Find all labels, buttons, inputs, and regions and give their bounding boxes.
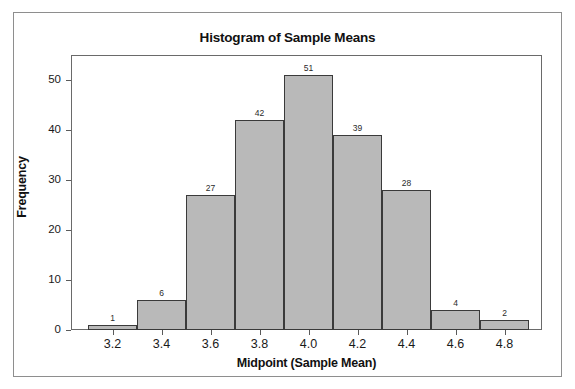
- figure-canvas: Histogram of Sample Means Frequency 0102…: [0, 0, 575, 389]
- y-axis-tick-label: 30: [37, 173, 61, 185]
- histogram-bar: [137, 300, 186, 330]
- y-axis-tick-label: 0: [37, 323, 61, 335]
- x-axis-tick-label: 4.0: [289, 337, 329, 351]
- histogram-bar: [333, 135, 382, 330]
- y-axis-tick-label: 50: [37, 73, 61, 85]
- histogram-bar: [284, 75, 333, 330]
- bar-value-label: 2: [480, 308, 529, 318]
- x-axis-tick-label: 4.4: [387, 337, 427, 351]
- histogram-bar: [431, 310, 480, 330]
- y-axis-tick-label: 40: [37, 123, 61, 135]
- x-axis-tick-label: 4.6: [436, 337, 476, 351]
- bar-value-label: 28: [382, 178, 431, 188]
- bar-value-label: 1: [88, 313, 137, 323]
- x-axis-tick-label: 3.6: [191, 337, 231, 351]
- plot-area: 16274251392842: [71, 55, 542, 330]
- y-axis-tick-label: 20: [37, 223, 61, 235]
- histogram-bar: [186, 195, 235, 330]
- bar-value-label: 4: [431, 298, 480, 308]
- bar-value-label: 27: [186, 183, 235, 193]
- x-axis-title: Midpoint (Sample Mean): [71, 356, 542, 370]
- y-axis-tick-label: 10: [37, 273, 61, 285]
- bar-value-label: 39: [333, 123, 382, 133]
- x-axis-tick: [113, 330, 114, 335]
- y-axis-title: Frequency: [15, 137, 29, 237]
- x-axis-tick-label: 4.2: [338, 337, 378, 351]
- histogram-bar: [235, 120, 284, 330]
- x-axis-tick: [260, 330, 261, 335]
- bar-value-label: 6: [137, 288, 186, 298]
- x-axis-tick: [309, 330, 310, 335]
- x-axis-tick-label: 3.2: [93, 337, 133, 351]
- x-axis-tick-label: 4.8: [485, 337, 525, 351]
- histogram-bar: [382, 190, 431, 330]
- histogram-bar: [88, 325, 137, 330]
- x-axis-tick: [211, 330, 212, 335]
- bar-value-label: 42: [235, 108, 284, 118]
- x-axis-tick: [358, 330, 359, 335]
- x-axis-tick: [407, 330, 408, 335]
- chart-title: Histogram of Sample Means: [13, 30, 562, 45]
- x-axis-tick: [162, 330, 163, 335]
- histogram-bar: [480, 320, 529, 330]
- x-axis-tick-label: 3.8: [240, 337, 280, 351]
- x-axis-tick: [505, 330, 506, 335]
- y-axis-tick: [66, 330, 71, 331]
- bar-value-label: 51: [284, 63, 333, 73]
- x-axis-tick: [456, 330, 457, 335]
- x-axis-tick-label: 3.4: [142, 337, 182, 351]
